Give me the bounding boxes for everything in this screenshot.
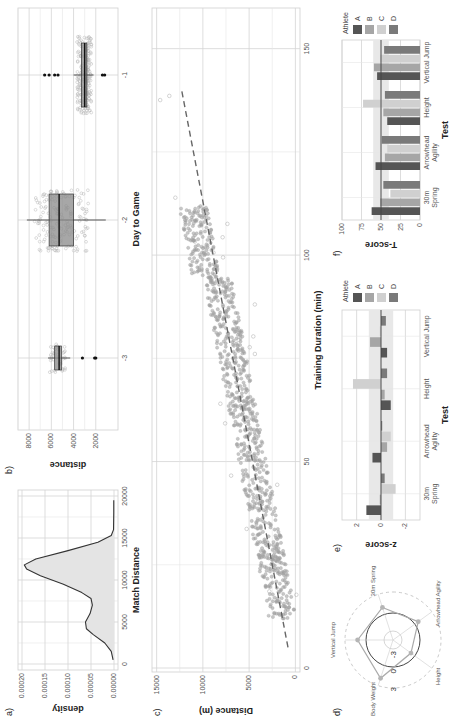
- y-axis-title: Distance (m): [199, 706, 253, 716]
- data-point: [241, 412, 244, 415]
- bar-A: [372, 453, 381, 463]
- data-point: [220, 277, 223, 280]
- data-point: [246, 455, 249, 458]
- data-point: [222, 378, 225, 381]
- data-point: [239, 330, 242, 333]
- data-point: [193, 271, 196, 274]
- radar-ring-label: -3: [389, 650, 398, 658]
- data-point: [270, 575, 273, 578]
- bar-D: [382, 136, 420, 144]
- data-point: [253, 442, 256, 445]
- x-tick-label: Spring: [431, 484, 439, 504]
- data-point: [184, 219, 187, 222]
- data-point: [231, 340, 234, 343]
- data-point: [230, 297, 233, 300]
- outlier-point: [56, 73, 59, 76]
- bar-D: [381, 369, 387, 379]
- data-point: [224, 360, 227, 363]
- data-point: [218, 313, 221, 316]
- data-point: [251, 525, 254, 528]
- data-point: [238, 368, 241, 371]
- data-point: [254, 537, 257, 540]
- data-point: [248, 488, 251, 491]
- data-point: [226, 277, 229, 280]
- legend-label: A: [354, 16, 361, 21]
- x-axis-title: Day to Game: [131, 191, 141, 246]
- data-point: [186, 231, 189, 234]
- data-point: [239, 461, 242, 464]
- data-point: [285, 606, 288, 609]
- outlier-point: [253, 303, 257, 307]
- bar-C: [363, 100, 420, 108]
- data-point: [267, 614, 270, 617]
- x-tick-label: Spring: [431, 187, 439, 207]
- data-point: [200, 245, 203, 248]
- data-point: [259, 460, 262, 463]
- data-point: [248, 458, 251, 461]
- data-point: [200, 224, 203, 227]
- data-point: [260, 561, 263, 564]
- data-point: [191, 224, 194, 227]
- data-point: [216, 319, 219, 322]
- legend-title: Athlete: [342, 280, 349, 302]
- data-point: [242, 472, 245, 475]
- data-point: [84, 212, 87, 215]
- y-tick-label: 0: [377, 523, 384, 527]
- x-axis-title: Test: [440, 406, 450, 424]
- data-point: [243, 435, 246, 438]
- x-tick-label: Agility: [431, 143, 439, 162]
- data-point: [38, 240, 41, 243]
- data-point: [188, 212, 191, 215]
- data-point: [205, 208, 208, 211]
- bar-D: [381, 474, 385, 484]
- data-point: [225, 310, 228, 313]
- legend-swatch-B: [365, 25, 374, 34]
- data-point: [243, 351, 246, 354]
- data-point: [82, 208, 85, 211]
- data-point: [208, 262, 211, 265]
- legend-title: Athlete: [342, 12, 349, 34]
- data-point: [233, 330, 236, 333]
- data-point: [87, 202, 90, 205]
- radar-point: [378, 676, 383, 681]
- legend-label: B: [366, 16, 373, 21]
- panel-label-b: b): [4, 466, 14, 474]
- data-point: [236, 437, 239, 440]
- data-point: [242, 381, 245, 384]
- y-tick-label: 0: [291, 675, 298, 679]
- data-point: [271, 615, 274, 618]
- data-point: [226, 394, 229, 397]
- data-point: [233, 409, 236, 412]
- data-point: [214, 315, 217, 318]
- data-point: [252, 481, 255, 484]
- x-axis-title: Test: [440, 121, 450, 139]
- data-point: [271, 548, 274, 551]
- data-point: [210, 235, 213, 238]
- data-point: [261, 441, 264, 444]
- data-point: [76, 250, 79, 253]
- data-point: [252, 419, 255, 422]
- data-point: [179, 212, 182, 215]
- bar-D: [384, 46, 420, 54]
- data-point: [276, 550, 279, 553]
- outlier-point: [53, 73, 56, 76]
- data-point: [185, 209, 188, 212]
- data-point: [249, 432, 252, 435]
- data-point: [190, 264, 193, 267]
- data-point: [266, 577, 269, 580]
- data-point: [203, 230, 206, 233]
- data-point: [188, 219, 191, 222]
- data-point: [264, 541, 267, 544]
- data-point: [185, 237, 188, 240]
- data-point: [198, 269, 201, 272]
- data-point: [292, 608, 295, 611]
- data-point: [278, 582, 281, 585]
- data-point: [219, 342, 222, 345]
- bar-B: [381, 390, 385, 400]
- data-point: [206, 268, 209, 271]
- data-point: [275, 600, 278, 603]
- y-tick-label: 0.00005: [87, 673, 94, 698]
- panel-label-c: c): [152, 709, 162, 717]
- x-tick-label: Height: [423, 97, 431, 117]
- data-point: [231, 400, 234, 403]
